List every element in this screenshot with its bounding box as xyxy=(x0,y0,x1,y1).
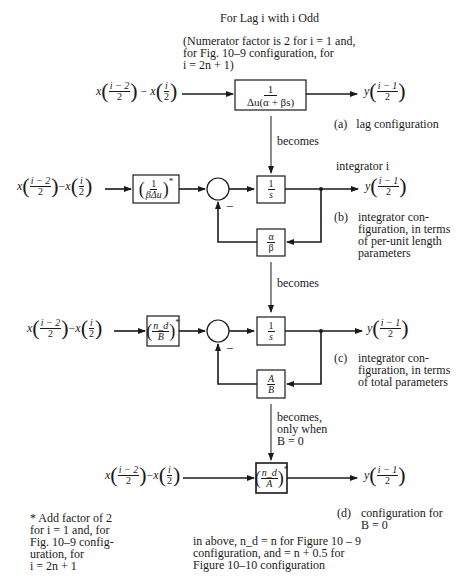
gain-block-c-label: (n_dB)* xyxy=(147,316,179,346)
figure-title: For Lag i with i Odd xyxy=(220,12,319,25)
feedback-block-c-label: AB xyxy=(257,370,285,398)
feedback-path-b xyxy=(287,189,321,242)
caption-tag-c: (c) xyxy=(334,352,347,365)
integrator-block-c-label: 1s xyxy=(257,317,285,345)
caption-b: integrator con- figuration, in terms of … xyxy=(358,211,450,259)
feedback-sign-c: − xyxy=(226,342,233,355)
feedback-sign-b: − xyxy=(226,200,233,213)
feedback-path-c xyxy=(287,331,321,384)
output-signal-d: y (i − 12) xyxy=(364,464,406,486)
feedback-block-b-label: αβ xyxy=(257,229,285,256)
caption-c: integrator con- figuration, in terms of … xyxy=(358,352,450,388)
becomes-label-cd: becomes, only when B = 0 xyxy=(277,411,327,447)
caption-tag-d: (d) xyxy=(337,507,351,520)
output-signal-c: y (i − 12) xyxy=(367,317,409,339)
summing-junction-b xyxy=(207,178,229,200)
lag-block-a-label: 1Δu(α + βs) xyxy=(235,80,306,110)
summing-junction-c xyxy=(207,320,229,342)
input-signal-b: x (i − 22) − x (i2) xyxy=(17,175,92,197)
integrator-block-b-label: 1s xyxy=(257,176,285,203)
output-signal-a: y (i − 12) xyxy=(364,80,406,102)
becomes-label-ab: becomes xyxy=(277,135,319,148)
input-signal-a: x (i − 22) − x (i2) xyxy=(96,80,177,102)
becomes-label-bc: becomes xyxy=(277,277,319,290)
bottom-note: in above, n_d = n for Figure 10 – 9 conf… xyxy=(193,535,361,571)
caption-d: configuration for B = 0 xyxy=(361,507,443,531)
gain-block-d-label: (n_dA)* xyxy=(256,463,287,493)
caption-tag-b: (b) xyxy=(334,211,348,224)
footnote: * Add factor of 2 for i = 1 and, for Fig… xyxy=(30,512,114,572)
gain-block-b-label: (1βΔu)* xyxy=(133,175,179,203)
header-note: (Numerator factor is 2 for i = 1 and, fo… xyxy=(183,35,355,71)
feedback-return-c xyxy=(218,344,257,384)
integrator-title: integrator i xyxy=(336,160,389,173)
input-signal-d: x (i − 22) − x (i2) xyxy=(105,464,180,486)
caption-a: (a) lag configuration xyxy=(334,118,439,131)
input-signal-c: x (i − 22) − x (i2) xyxy=(27,317,102,339)
feedback-return-b xyxy=(218,202,257,242)
output-signal-b: y (i − 12) xyxy=(365,175,407,197)
